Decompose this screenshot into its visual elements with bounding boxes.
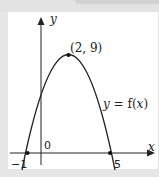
function-label: y = f(x) [102,97,148,111]
parabola-chart: y x 0 (2, 9) −1 5 y = f(x) [0,0,159,177]
left-root-point [26,151,30,155]
y-axis-arrow-icon [38,17,45,25]
y-axis-label: y [49,12,57,26]
left-root-label: −1 [11,158,27,171]
vertex-label: (2, 9) [70,41,102,55]
x-axis-label: x [148,140,155,154]
origin-label: 0 [44,139,51,152]
right-root-label: 5 [114,158,121,171]
right-root-point [108,151,112,155]
